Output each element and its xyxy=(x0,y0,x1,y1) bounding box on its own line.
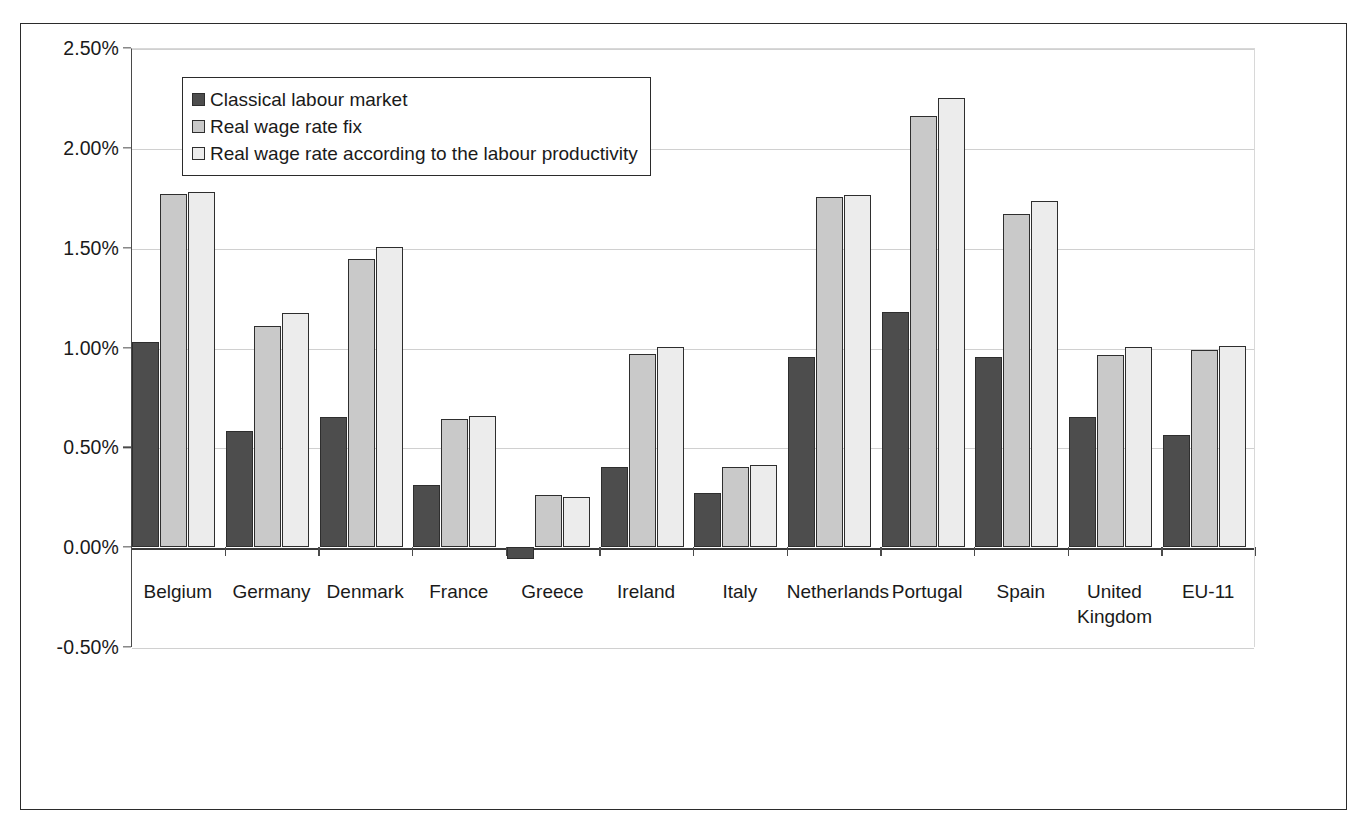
y-axis-tick-mark xyxy=(123,547,131,548)
x-axis-tick-mark xyxy=(506,547,507,556)
x-axis-category-label: Italy xyxy=(693,579,787,604)
bar xyxy=(975,357,1002,547)
x-axis-tick-mark xyxy=(787,547,788,556)
y-axis-tick-mark xyxy=(123,247,131,248)
bar xyxy=(629,354,656,547)
bar xyxy=(722,467,749,547)
legend-item[interactable]: Classical labour market xyxy=(192,86,638,113)
bar xyxy=(1069,417,1096,547)
x-axis-category-label: Netherlands xyxy=(787,579,881,604)
x-axis-tick-mark xyxy=(131,547,132,556)
y-axis-tick-mark xyxy=(123,447,131,448)
bar xyxy=(563,497,590,547)
y-axis-tick-label: 1.00% xyxy=(0,336,119,359)
gridline xyxy=(132,648,1254,649)
bar xyxy=(882,312,909,548)
legend-label: Real wage rate according to the labour p… xyxy=(210,143,638,165)
bar xyxy=(188,192,215,547)
bar xyxy=(1125,347,1152,548)
legend-label: Real wage rate fix xyxy=(210,116,362,138)
x-axis-tick-mark xyxy=(599,547,600,556)
x-axis-tick-mark xyxy=(1068,547,1069,556)
legend-swatch-real-wage-rate-productivity xyxy=(192,147,205,160)
bar xyxy=(441,419,468,547)
y-axis-tick-label: 1.50% xyxy=(0,236,119,259)
bar xyxy=(601,467,628,547)
bar xyxy=(282,313,309,548)
x-axis-tick-mark xyxy=(225,547,226,556)
bar xyxy=(910,116,937,547)
gridline xyxy=(132,249,1254,250)
chart-legend: Classical labour market Real wage rate f… xyxy=(182,77,651,176)
bar xyxy=(1191,350,1218,547)
x-axis-tick-mark xyxy=(880,547,881,556)
y-axis-tick-label: 2.50% xyxy=(0,37,119,60)
bar xyxy=(1163,435,1190,547)
legend-swatch-classical-labour-market xyxy=(192,93,205,106)
x-axis-category-label: Germany xyxy=(225,579,319,604)
bar xyxy=(816,197,843,547)
x-axis-category-label: Denmark xyxy=(318,579,412,604)
bar xyxy=(254,326,281,548)
bar xyxy=(348,259,375,548)
bar xyxy=(1097,355,1124,547)
legend-item[interactable]: Real wage rate according to the labour p… xyxy=(192,140,638,167)
y-axis-tick-mark xyxy=(123,347,131,348)
y-axis-tick-label: 2.00% xyxy=(0,136,119,159)
bar xyxy=(320,417,347,547)
x-axis-tick-mark xyxy=(1161,547,1162,556)
bar xyxy=(657,347,684,548)
y-axis-tick-label: 0.50% xyxy=(0,436,119,459)
bar xyxy=(1003,214,1030,547)
bar xyxy=(750,465,777,547)
y-axis-tick-label: 0.00% xyxy=(0,536,119,559)
legend-label: Classical labour market xyxy=(210,89,407,111)
x-axis-category-label: France xyxy=(412,579,506,604)
bar xyxy=(132,342,159,548)
bar xyxy=(938,98,965,547)
bar xyxy=(788,357,815,547)
legend-swatch-real-wage-rate-fix xyxy=(192,120,205,133)
bar xyxy=(160,194,187,547)
bar xyxy=(413,485,440,547)
bar xyxy=(1031,201,1058,547)
x-axis-category-label: Greece xyxy=(506,579,600,604)
bar xyxy=(1219,346,1246,548)
bar xyxy=(226,431,253,547)
gridline xyxy=(132,49,1254,50)
y-axis-tick-mark xyxy=(123,646,131,647)
legend-item[interactable]: Real wage rate fix xyxy=(192,113,638,140)
x-axis-category-label: United Kingdom xyxy=(1068,579,1162,629)
x-axis-tick-mark xyxy=(974,547,975,556)
x-axis-tick-mark xyxy=(318,547,319,556)
y-axis-tick-mark xyxy=(123,47,131,48)
x-axis-category-label: Ireland xyxy=(599,579,693,604)
x-axis-tick-mark xyxy=(1255,547,1256,556)
x-axis-category-label: Spain xyxy=(974,579,1068,604)
bar xyxy=(376,247,403,547)
bar xyxy=(844,195,871,547)
x-axis-tick-mark xyxy=(693,547,694,556)
y-axis-tick-mark xyxy=(123,147,131,148)
x-axis-category-label: Portugal xyxy=(880,579,974,604)
bar xyxy=(694,493,721,547)
x-axis-category-label: EU-11 xyxy=(1161,579,1255,604)
bar xyxy=(535,495,562,547)
x-axis-tick-mark xyxy=(412,547,413,556)
bar xyxy=(469,416,496,547)
figure-frame: 2.50%2.00%1.50%1.00%0.50%0.00%-0.50% Bel… xyxy=(20,23,1347,810)
y-axis-tick-label: -0.50% xyxy=(0,636,119,659)
bar xyxy=(507,547,534,559)
x-axis-category-label: Belgium xyxy=(131,579,225,604)
chart-page: 2.50%2.00%1.50%1.00%0.50%0.00%-0.50% Bel… xyxy=(0,0,1361,829)
